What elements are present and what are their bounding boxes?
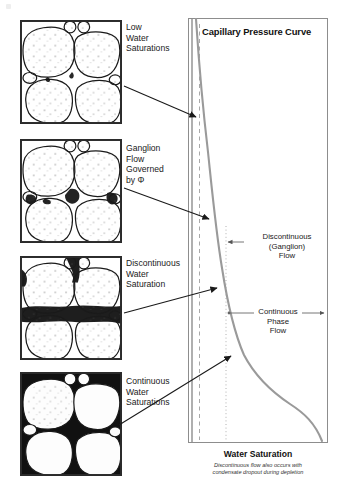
- figure-canvas: Low Water Saturations: [0, 0, 338, 496]
- panel-low-water: [20, 20, 122, 124]
- chart-frame: [188, 18, 328, 443]
- scan-artifact: [6, 4, 11, 9]
- chart-title: Capillary Pressure Curve: [202, 26, 311, 37]
- pore-grain-illustration-4: [21, 373, 121, 475]
- chart-footnote: Discontinuous flow also occurs with cond…: [188, 462, 328, 477]
- pore-grain-illustration-2: [21, 140, 121, 242]
- callout-arrow-low-water: [124, 86, 196, 117]
- pore-grain-illustration-1: [21, 21, 121, 123]
- chart-x-axis-label: Water Saturation: [188, 449, 328, 459]
- pore-grain-illustration-3: [21, 257, 121, 359]
- panel-discontinuous-water: [20, 256, 122, 360]
- panel-continuous-water: [20, 372, 122, 476]
- panel-ganglion: [20, 139, 122, 243]
- note-continuous-flow: Continuous Phase Flow: [252, 307, 304, 336]
- note-discontinuous-flow: Discontinuous (Ganglion) Flow: [244, 232, 330, 261]
